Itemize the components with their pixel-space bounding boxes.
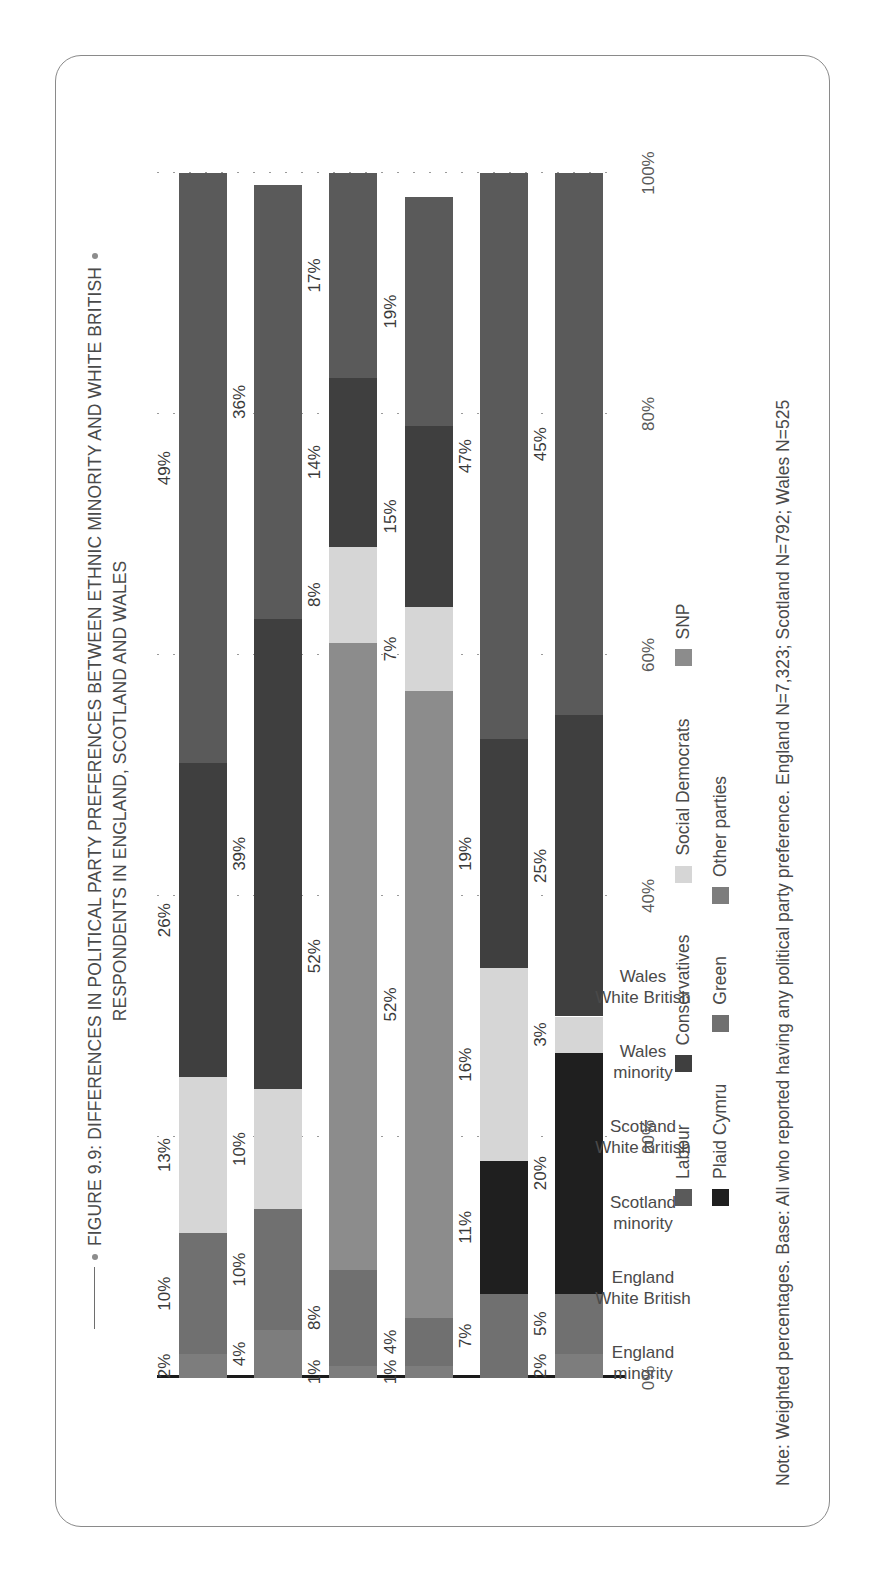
legend-label: Plaid Cymru	[710, 1084, 731, 1179]
figure-title-line-2: RESPONDENTS IN ENGLAND, SCOTLAND AND WAL…	[108, 76, 133, 1506]
bar-segment-label: 2%	[531, 1354, 551, 1379]
legend-item[interactable]: Conservatives	[673, 935, 694, 1073]
figure-title-line-1: FIGURE 9.9: DIFFERENCES IN POLITICAL PAR…	[83, 76, 108, 1506]
legend-swatch-icon	[712, 887, 729, 904]
legend-swatch-icon	[712, 1189, 729, 1206]
bar-segment-label: 26%	[154, 903, 174, 937]
legend-label: Other parties	[710, 776, 731, 877]
bar-segment-label: 5%	[531, 1311, 551, 1336]
legend-item[interactable]: Other parties	[710, 776, 731, 904]
chart-plot-area: 2%10%13%26%49%4%10%10%39%36%1%8%52%8%14%…	[165, 173, 617, 1378]
bar-segment-label: 14%	[305, 445, 325, 479]
bar-segment-label: 45%	[531, 427, 551, 461]
bar-segment	[329, 547, 377, 643]
bar-group: 2%5%20%3%25%45%	[555, 173, 603, 1378]
legend-label: Labour	[673, 1125, 694, 1180]
bar-segment	[178, 763, 226, 1076]
bar-segment-label: 16%	[456, 1048, 476, 1082]
bar-segment	[254, 1089, 302, 1210]
value-axis-tick-label: 80%	[639, 397, 659, 431]
bar-segment-label: 4%	[380, 1330, 400, 1355]
legend-row: LabourConservativesSocial DemocratsSNP	[673, 386, 694, 1206]
bar-segment-label: 11%	[456, 1211, 476, 1244]
title-dot-right-icon	[91, 253, 97, 259]
legend-item[interactable]: Labour	[673, 1125, 694, 1207]
legend-label: Green	[710, 956, 731, 1005]
legend-swatch-icon	[675, 1056, 692, 1073]
legend-swatch-icon	[675, 866, 692, 883]
chart-legend: LabourConservativesSocial DemocratsSNPPl…	[673, 386, 747, 1206]
bar-segment	[480, 739, 528, 968]
bar-segment	[480, 1161, 528, 1294]
bar-segment	[329, 173, 377, 378]
bar-group: 4%10%10%39%36%	[254, 173, 302, 1378]
bar-segment-label: 25%	[531, 849, 551, 883]
bar-group: 1%4%52%7%15%19%	[404, 173, 452, 1378]
bar-segment-label: 15%	[380, 499, 400, 533]
bar-segment-label: 19%	[380, 295, 400, 329]
bar-segment	[404, 691, 452, 1318]
bar-segment-label: 10%	[154, 1277, 174, 1311]
bar-group: 7%11%16%19%47%	[480, 173, 528, 1378]
figure-note: Note: Weighted percentages. Base: All wh…	[773, 96, 794, 1486]
legend-item[interactable]: Green	[710, 956, 731, 1032]
bar-segment-label: 52%	[305, 939, 325, 973]
bar-segment	[555, 1053, 603, 1294]
bar-segment-label: 17%	[305, 258, 325, 292]
bar-segment	[329, 378, 377, 547]
bar-segment	[254, 619, 302, 1089]
bar-segment	[254, 185, 302, 619]
title-rule-icon	[93, 1267, 94, 1329]
bar-segment	[178, 1077, 226, 1234]
bar-segment	[555, 1017, 603, 1053]
bar-segment	[480, 968, 528, 1161]
title-dot-icon	[91, 1254, 97, 1260]
bar-segment	[555, 173, 603, 715]
legend-row: Plaid CymruGreenOther parties	[710, 386, 731, 1206]
bar-segment	[178, 1233, 226, 1354]
bar-segment-label: 3%	[531, 1022, 551, 1047]
bar-segment	[404, 1318, 452, 1366]
bar-segment	[178, 1354, 226, 1378]
legend-item[interactable]: SNP	[673, 603, 694, 666]
bar-segment-label: 47%	[456, 439, 476, 473]
legend-item[interactable]: Plaid Cymru	[710, 1084, 731, 1206]
bar-segment	[329, 643, 377, 1270]
value-axis-tick-label: 20%	[639, 1120, 659, 1154]
legend-swatch-icon	[675, 649, 692, 666]
value-axis-tick-label: 60%	[639, 638, 659, 672]
bar-segment-label: 4%	[230, 1342, 250, 1367]
value-axis-tick-label: 0%	[639, 1366, 659, 1391]
bar-segment-label: 8%	[305, 1305, 325, 1330]
bar-segment-label: 39%	[230, 837, 250, 871]
bar-group: 1%8%52%8%14%17%	[329, 173, 377, 1378]
figure-card: FIGURE 9.9: DIFFERENCES IN POLITICAL PAR…	[55, 55, 830, 1527]
bar-segment	[254, 1330, 302, 1378]
value-axis-labels: 0%20%40%60%80%100%	[639, 173, 669, 1378]
bar-group: 2%10%13%26%49%	[178, 173, 226, 1378]
bar-segment-label: 8%	[305, 582, 325, 607]
bar-segment	[404, 607, 452, 691]
bar-segment	[480, 1294, 528, 1378]
bar-segment-label: 7%	[380, 637, 400, 662]
bar-segment-label: 2%	[154, 1354, 174, 1379]
bar-segment-label: 36%	[230, 385, 250, 419]
bar-segment-label: 1%	[380, 1360, 400, 1385]
bar-segment	[480, 173, 528, 739]
rotated-figure-stage: FIGURE 9.9: DIFFERENCES IN POLITICAL PAR…	[73, 76, 813, 1506]
bar-segment	[178, 173, 226, 763]
bar-segment	[254, 1209, 302, 1330]
legend-item[interactable]: Social Democrats	[673, 718, 694, 882]
bar-segment-label: 7%	[456, 1324, 476, 1349]
bar-segment	[404, 197, 452, 426]
bar-segment-label: 10%	[230, 1132, 250, 1166]
bar-segment-label: 19%	[456, 837, 476, 871]
figure-title-text-1: FIGURE 9.9: DIFFERENCES IN POLITICAL PAR…	[85, 267, 105, 1246]
bar-segment-label: 1%	[305, 1360, 325, 1385]
legend-swatch-icon	[712, 1015, 729, 1032]
value-axis-tick-label: 40%	[639, 879, 659, 913]
bar-segment-label: 20%	[531, 1156, 551, 1190]
figure-title: FIGURE 9.9: DIFFERENCES IN POLITICAL PAR…	[83, 76, 134, 1506]
value-axis-tick-label: 100%	[639, 151, 659, 194]
bar-segment-label: 13%	[154, 1138, 174, 1172]
